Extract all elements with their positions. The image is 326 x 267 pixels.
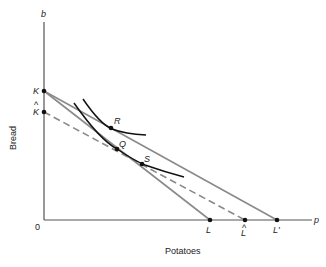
label-L-prime: L'	[273, 225, 280, 235]
x-axis-symbol: p	[313, 215, 319, 225]
point-L-prime	[275, 218, 280, 223]
origin-label: 0	[35, 222, 40, 232]
point-K-hat	[42, 110, 47, 115]
lower-indifference-curve	[74, 103, 184, 177]
point-L-hat	[243, 218, 248, 223]
y-axis-symbol: b	[41, 9, 46, 19]
y-axis-label: Bread	[8, 126, 18, 150]
diagram-canvas: b p 0 K K ^ R Q S L L ^ L' Potatoes Brea…	[0, 0, 326, 267]
budget-line-Khat-Lhat-dashed	[44, 112, 245, 220]
label-Q: Q	[119, 139, 126, 149]
label-S: S	[144, 154, 150, 164]
label-R: R	[114, 116, 121, 126]
point-K	[42, 89, 47, 94]
point-L	[208, 218, 213, 223]
label-K: K	[33, 86, 40, 96]
hat-mark-L: ^	[242, 223, 247, 233]
label-L: L	[206, 225, 211, 235]
x-axis-label: Potatoes	[165, 246, 201, 256]
point-R	[109, 126, 114, 131]
